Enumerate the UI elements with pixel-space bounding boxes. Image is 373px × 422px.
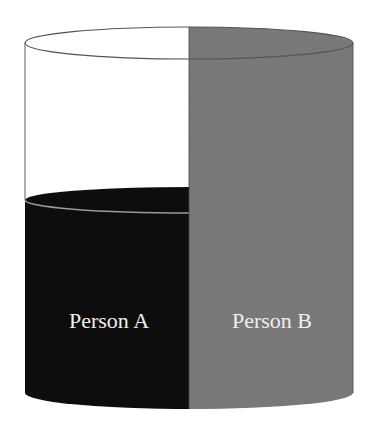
person-a-empty-region [25, 43, 189, 200]
person-a-fill [25, 187, 189, 409]
person-b-section [189, 27, 353, 409]
person-b-label: Person B [232, 308, 312, 333]
person-b-fill [189, 27, 353, 409]
person-a-section [25, 187, 189, 409]
person-a-label: Person A [69, 308, 149, 333]
cylinder-diagram: Person A Person B [0, 0, 373, 422]
